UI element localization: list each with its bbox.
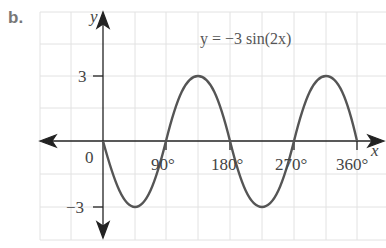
x-tick-90: 90° <box>151 155 175 174</box>
y-axis-label: y <box>88 7 98 26</box>
chart-title: y = −3 sin(2x) <box>200 30 291 48</box>
chart: y x y = −3 sin(2x) 3 −3 0 90° 180° 270° … <box>0 0 386 248</box>
x-tick-180: 180° <box>211 155 243 174</box>
x-axis-label: x <box>370 141 379 160</box>
x-tick-270: 270° <box>275 155 307 174</box>
y-tick-3: 3 <box>78 67 87 86</box>
x-tick-360: 360° <box>336 155 368 174</box>
y-tick-neg3: −3 <box>66 198 84 217</box>
origin-label: 0 <box>85 148 94 167</box>
